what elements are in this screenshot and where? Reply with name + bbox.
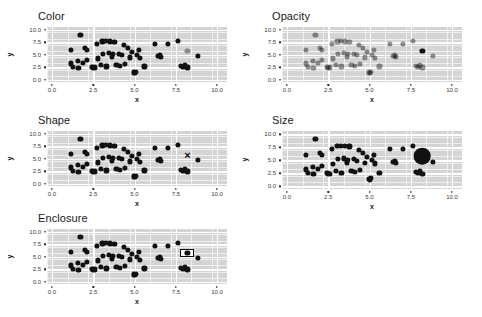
gridline-x-minor <box>171 229 172 284</box>
gridline-x-minor <box>282 27 283 82</box>
x-tick-label: 2.5 <box>89 289 97 295</box>
gridline-x-major <box>217 229 218 284</box>
data-point <box>68 151 73 156</box>
gridline-x-minor <box>68 131 69 186</box>
highlight-point <box>420 48 425 53</box>
data-point <box>94 146 99 151</box>
x-axis-title: x <box>47 200 227 207</box>
data-point <box>369 69 374 74</box>
gridline-y-major <box>282 186 462 187</box>
plot-area-opacity <box>282 27 462 82</box>
gridline-x-major <box>217 131 218 186</box>
x-tick-mark <box>93 188 94 191</box>
gridline-y-major <box>282 30 462 31</box>
data-point <box>94 244 99 249</box>
y-tick-label: 2.5 <box>21 64 41 70</box>
data-point <box>394 160 399 165</box>
y-tick-label: 7.5 <box>256 39 276 45</box>
data-point <box>159 256 164 261</box>
y-tick-label: 2.5 <box>21 266 41 272</box>
gridline-x-minor <box>385 27 386 82</box>
data-point <box>313 137 318 142</box>
data-point <box>305 170 310 175</box>
data-point <box>78 136 83 141</box>
x-tick-mark <box>51 188 52 191</box>
gridline-x-minor <box>323 27 324 82</box>
data-point <box>330 56 335 61</box>
data-point <box>165 244 170 249</box>
x-tick-label: 0.0 <box>48 289 56 295</box>
gridline-y-minor <box>47 149 227 150</box>
gridline-y-minor <box>47 234 227 235</box>
panel-title-size: Size <box>272 114 294 126</box>
gridline-x-minor <box>323 131 324 189</box>
data-point <box>134 271 139 276</box>
x-tick-mark <box>410 191 411 194</box>
data-point <box>165 42 170 47</box>
gridline-y-major <box>282 147 462 148</box>
data-point <box>95 258 100 263</box>
gridline-x-major <box>176 27 177 82</box>
data-point <box>95 160 100 165</box>
y-tick-mark <box>44 281 47 282</box>
gridline-x-major <box>176 131 177 186</box>
x-tick-mark <box>51 84 52 87</box>
plot-area-shape: × <box>47 131 227 186</box>
x-axis-title: x <box>282 203 462 210</box>
gridline-x-minor <box>150 229 151 284</box>
gridline-x-major <box>52 131 53 186</box>
x-tick-mark <box>328 84 329 87</box>
data-point <box>329 146 334 151</box>
x-tick-label: 5.0 <box>365 87 373 93</box>
x-tick-mark <box>369 84 370 87</box>
gridline-x-major <box>217 27 218 82</box>
y-tick-mark <box>44 133 47 134</box>
gridline-x-major <box>93 27 94 82</box>
y-tick-mark <box>279 66 282 67</box>
y-tick-label: 10.0 <box>256 131 276 137</box>
gridline-x-major <box>452 27 453 82</box>
gridline-y-major <box>47 80 227 81</box>
y-tick-label: 0.0 <box>256 77 276 83</box>
gridline-y-major <box>47 146 227 147</box>
gridline-x-minor <box>88 229 89 284</box>
x-tick-label: 10.0 <box>211 289 223 295</box>
gridline-x-minor <box>406 27 407 82</box>
y-tick-mark <box>279 79 282 80</box>
data-point <box>373 55 378 60</box>
x-tick-mark <box>369 191 370 194</box>
y-tick-mark <box>44 146 47 147</box>
plot-area-enclosure <box>47 229 227 284</box>
data-point <box>68 47 73 52</box>
x-tick-mark <box>134 286 135 289</box>
gridline-y-major <box>47 244 227 245</box>
x-axis-title: x <box>282 96 462 103</box>
x-tick-mark <box>51 286 52 289</box>
y-tick-label: 10.0 <box>21 229 41 235</box>
gridline-x-minor <box>282 131 283 189</box>
gridline-y-minor <box>47 45 227 46</box>
gridline-y-major <box>47 30 227 31</box>
data-point <box>165 146 170 151</box>
x-tick-label: 10.0 <box>446 194 458 200</box>
y-tick-mark <box>44 42 47 43</box>
x-tick-mark <box>216 188 217 191</box>
y-tick-label: 0.0 <box>256 183 276 189</box>
y-tick-mark <box>44 170 47 171</box>
y-tick-label: 5.0 <box>256 157 276 163</box>
x-tick-label: 7.5 <box>172 87 180 93</box>
x-tick-label: 5.0 <box>130 289 138 295</box>
data-point <box>330 162 335 167</box>
y-tick-mark <box>279 186 282 187</box>
data-point <box>122 263 127 268</box>
y-axis-title: y <box>241 154 248 166</box>
data-point <box>95 56 100 61</box>
panel-title-shape: Shape <box>38 114 70 126</box>
gridline-x-major <box>411 27 412 82</box>
data-point <box>134 69 139 74</box>
y-tick-mark <box>279 146 282 147</box>
x-tick-label: 5.0 <box>365 194 373 200</box>
gridline-x-minor <box>171 27 172 82</box>
gridline-y-major <box>47 184 227 185</box>
x-tick-label: 7.5 <box>407 87 415 93</box>
